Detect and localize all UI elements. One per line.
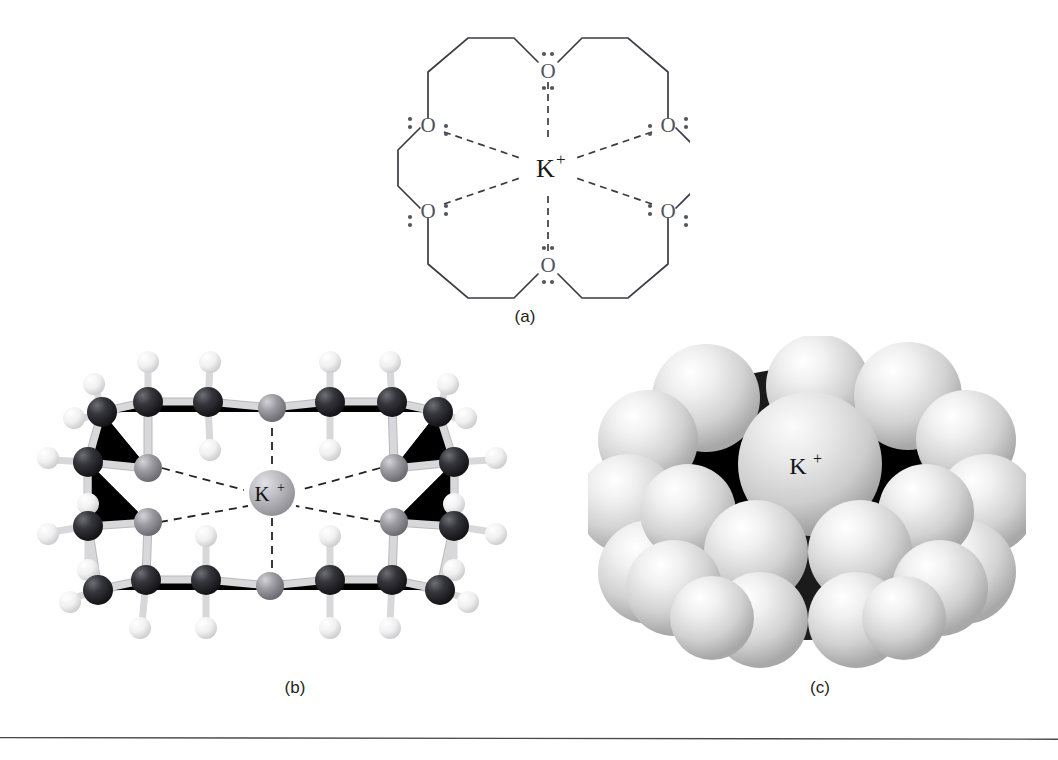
carbon-atom: [191, 565, 221, 595]
carbon-atom: [439, 511, 469, 541]
carbon-atom: [315, 565, 345, 595]
coordination-bond-left: [162, 468, 244, 490]
lone-pair-left: [408, 215, 412, 227]
carbon-atom: [73, 511, 103, 541]
lone-pair-right: [444, 124, 448, 136]
oxygen-label: O: [420, 199, 435, 223]
carbon-atom: [315, 387, 345, 417]
potassium-charge: +: [556, 150, 566, 169]
coordination-bond-upper-left: [444, 132, 520, 158]
oxygen-atom-lower-left: O: [408, 199, 448, 227]
potassium-charge: +: [813, 450, 822, 467]
lone-pair-top: [542, 52, 554, 56]
hydrogen-atom: [437, 373, 459, 395]
oxygen-label: O: [540, 253, 555, 277]
carbon-atom: [423, 397, 453, 427]
carbon-atom: [439, 447, 469, 477]
oxygen-label: O: [660, 199, 675, 223]
oxygen-label: O: [660, 113, 675, 137]
carbon-atom: [83, 575, 113, 605]
lewis-structure-svg: O O: [380, 10, 690, 300]
oxygen-atom-lower-right: O: [648, 199, 688, 227]
hydrogen-atom: [37, 447, 59, 469]
coordination-bond-lower-left: [160, 506, 248, 522]
lone-pair-right: [444, 204, 448, 216]
atom-sphere: [670, 576, 754, 660]
oxygen-label: O: [420, 113, 435, 137]
coordination-bond-right: [300, 468, 380, 490]
lone-pair-left: [648, 124, 652, 136]
oxygen-label: O: [540, 59, 555, 83]
hydrogen-atom: [195, 525, 217, 547]
panel-c-space-filling: K +: [588, 336, 1026, 672]
atom-sphere: [862, 576, 946, 660]
space-filling-svg: K +: [588, 336, 1026, 672]
lone-pair-left: [408, 117, 412, 129]
figure-canvas: O O: [0, 0, 1058, 760]
carbon-atom: [73, 447, 103, 477]
hydrogen-atom: [63, 407, 85, 429]
hydrogen-atom: [59, 591, 81, 613]
lone-pair-right: [684, 117, 688, 129]
hydrogen-atom: [319, 351, 341, 373]
panel-b-ball-and-stick: K +: [30, 340, 570, 670]
carbon-atom: [193, 387, 223, 417]
lone-pair-right: [684, 215, 688, 227]
hydrogen-atom: [455, 407, 477, 429]
hydrogen-atom: [37, 523, 59, 545]
oxygen-atom: [134, 454, 162, 482]
oxygen-atom: [256, 572, 284, 600]
carbon-atom: [377, 387, 407, 417]
potassium-symbol: K: [254, 482, 269, 506]
hydrogen-atom: [137, 351, 159, 373]
oxygen-atom: [380, 508, 408, 536]
potassium-ion-label: K +: [528, 150, 572, 183]
potassium-ion: K +: [249, 470, 295, 516]
panel-b-caption: (b): [265, 678, 325, 698]
panel-a-caption: (a): [495, 307, 555, 327]
carbon-atom: [377, 565, 407, 595]
hydrogen-atom: [319, 439, 341, 461]
panel-a-lewis-structure: O O: [380, 10, 690, 300]
coordination-bond-upper-right: [576, 132, 652, 158]
potassium-symbol: K: [789, 453, 807, 479]
coordination-bond-lower-right: [576, 178, 652, 204]
hydrogen-atom: [199, 351, 221, 373]
hydrogen-atom: [379, 617, 401, 639]
lone-pair-left: [648, 204, 652, 216]
ball-and-stick-svg: K +: [30, 340, 570, 670]
hydrogen-atom: [457, 591, 479, 613]
potassium-charge: +: [277, 480, 285, 495]
hydrogen-atom: [195, 617, 217, 639]
hydrogen-atom: [129, 617, 151, 639]
oxygen-atom: [258, 394, 286, 422]
oxygen-atom-bottom: O: [540, 246, 555, 284]
hydrogen-atom: [83, 373, 105, 395]
carbon-atom: [133, 387, 163, 417]
carbon-atom: [131, 565, 161, 595]
panel-c-caption: (c): [790, 678, 850, 698]
hydrogen-atom: [485, 523, 507, 545]
potassium-symbol: K: [536, 154, 555, 183]
hydrogen-atom: [485, 447, 507, 469]
bottom-divider-rule: [0, 737, 1058, 740]
hydrogen-atom: [199, 439, 221, 461]
coordination-bond-lower-left: [444, 178, 520, 204]
carbon-atom: [87, 397, 117, 427]
oxygen-atom: [380, 454, 408, 482]
oxygen-atom: [134, 508, 162, 536]
lone-pair-bottom: [542, 280, 554, 284]
hydrogen-atom: [379, 351, 401, 373]
hydrogen-atom: [319, 617, 341, 639]
hydrogen-atom: [319, 525, 341, 547]
carbon-atom: [425, 575, 455, 605]
coordination-bond-lower-right: [296, 506, 382, 522]
